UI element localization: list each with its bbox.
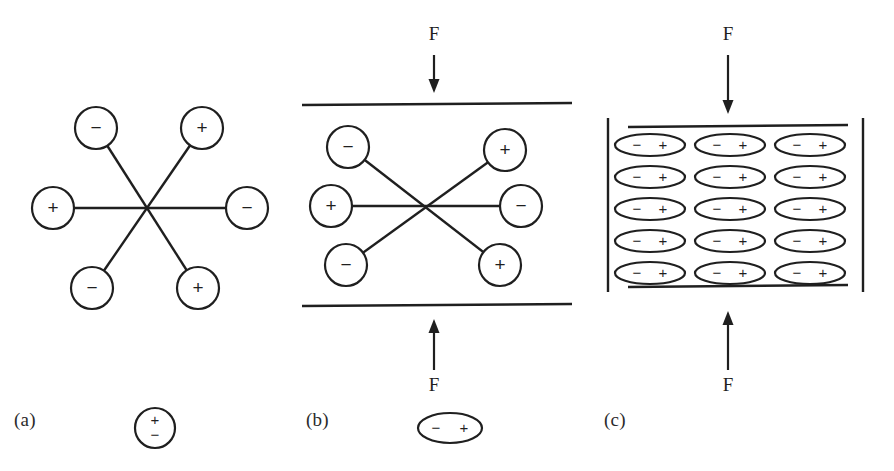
- charge-sign: −: [515, 195, 526, 216]
- charge-bottom-right: +: [177, 267, 219, 309]
- dipole-cell: − +: [615, 230, 685, 252]
- dipole-right-sign: +: [659, 232, 668, 249]
- panel-label-b: (b): [306, 409, 329, 431]
- charge-right: −: [226, 187, 268, 229]
- charge-sign: −: [340, 254, 351, 275]
- panel-c-bottom-force: F: [723, 311, 734, 395]
- panel-label-c: (c): [604, 409, 626, 431]
- arrow-head-down: [723, 100, 734, 114]
- dipole-left-sign: −: [793, 264, 802, 281]
- legend-right-sign: +: [460, 419, 469, 436]
- dipole-right-sign: +: [739, 168, 748, 185]
- force-label: F: [723, 23, 734, 44]
- charge-top-right: +: [484, 129, 526, 171]
- dipole-cell: − +: [775, 198, 845, 220]
- charge-bottom-left: −: [325, 244, 367, 286]
- charge-sign: −: [86, 277, 97, 298]
- charge-left: +: [310, 185, 352, 227]
- arrow-head-down: [429, 79, 440, 93]
- top-plate: [628, 125, 848, 127]
- dipole-right-sign: +: [659, 200, 668, 217]
- dipole-left-sign: −: [793, 136, 802, 153]
- charge-sign: +: [47, 197, 58, 218]
- panel-b-legend-symbol: − +: [418, 413, 482, 443]
- dipole-right-sign: +: [819, 136, 828, 153]
- dipole-left-sign: −: [633, 168, 642, 185]
- dipole-left-sign: −: [633, 136, 642, 153]
- charge-left: +: [32, 187, 74, 229]
- charge-sign: −: [342, 136, 353, 157]
- dipole-right-sign: +: [659, 168, 668, 185]
- dipole-cell: − +: [615, 166, 685, 188]
- dipole-right-sign: +: [819, 168, 828, 185]
- dipole-left-sign: −: [633, 232, 642, 249]
- panel-c: F − + − + − +: [608, 23, 863, 395]
- dipole-cell: − +: [695, 230, 765, 252]
- dipole-left-sign: −: [713, 136, 722, 153]
- legend-left-sign: −: [432, 419, 441, 436]
- dipole-right-sign: +: [659, 264, 668, 281]
- charge-sign: +: [499, 139, 510, 160]
- dipole-cell: − +: [775, 166, 845, 188]
- rod-diagonal-up: [346, 150, 505, 265]
- charge-sign: +: [325, 195, 336, 216]
- panel-b-bottom-force: F: [429, 319, 440, 395]
- dipole-right-sign: +: [819, 200, 828, 217]
- arrow-head-up: [723, 311, 734, 325]
- charge-bottom-right: +: [479, 244, 521, 286]
- dipole-cell: − +: [615, 198, 685, 220]
- charge-sign: +: [494, 254, 505, 275]
- dipole-cell: − +: [775, 230, 845, 252]
- panel-c-dipole-lattice: − + − + − + − + − +: [615, 134, 845, 284]
- legend-bottom-sign: −: [151, 426, 160, 443]
- charge-sign: +: [196, 117, 207, 138]
- dipole-right-sign: +: [819, 232, 828, 249]
- force-label: F: [429, 374, 440, 395]
- panel-c-top-force: F: [723, 23, 734, 114]
- dipole-cell: − +: [615, 262, 685, 284]
- dipole-left-sign: −: [633, 264, 642, 281]
- dipole-right-sign: +: [739, 200, 748, 217]
- bottom-plate: [628, 285, 848, 287]
- dipole-cell: − +: [695, 198, 765, 220]
- dipole-cell: − +: [775, 262, 845, 284]
- charge-top-left: −: [75, 107, 117, 149]
- dipole-cell: − +: [695, 134, 765, 156]
- charge-top-left: −: [327, 126, 369, 168]
- dipole-right-sign: +: [739, 232, 748, 249]
- dipole-right-sign: +: [819, 264, 828, 281]
- panel-a-legend-symbol: + −: [135, 408, 175, 448]
- charge-top-right: +: [181, 107, 223, 149]
- dipole-left-sign: −: [713, 232, 722, 249]
- dipole-cell: − +: [775, 134, 845, 156]
- dipole-cell: − +: [695, 166, 765, 188]
- dipole-cell: − +: [695, 262, 765, 284]
- arrow-head-up: [429, 319, 440, 333]
- charge-bottom-left: −: [71, 267, 113, 309]
- dipole-right-sign: +: [739, 264, 748, 281]
- charge-sign: −: [90, 117, 101, 138]
- dipole-left-sign: −: [713, 200, 722, 217]
- dipole-right-sign: +: [659, 136, 668, 153]
- panel-a: − + + − − + +: [32, 107, 268, 448]
- charge-right: −: [500, 185, 542, 227]
- charge-sign: −: [241, 197, 252, 218]
- panel-b: F − + + −: [302, 23, 572, 443]
- panel-a-rods: [53, 128, 247, 288]
- panel-b-top-force: F: [429, 23, 440, 93]
- dipole-left-sign: −: [793, 200, 802, 217]
- dipole-orientation-figure: − + + − − + +: [0, 0, 894, 471]
- dipole-right-sign: +: [739, 136, 748, 153]
- force-label: F: [723, 374, 734, 395]
- charge-sign: +: [192, 277, 203, 298]
- bottom-plate: [302, 304, 572, 306]
- dipole-left-sign: −: [793, 232, 802, 249]
- force-label: F: [429, 23, 440, 44]
- dipole-cell: − +: [615, 134, 685, 156]
- dipole-left-sign: −: [793, 168, 802, 185]
- panel-label-a: (a): [14, 409, 36, 431]
- top-plate: [302, 103, 572, 105]
- dipole-left-sign: −: [633, 200, 642, 217]
- dipole-left-sign: −: [713, 168, 722, 185]
- dipole-left-sign: −: [713, 264, 722, 281]
